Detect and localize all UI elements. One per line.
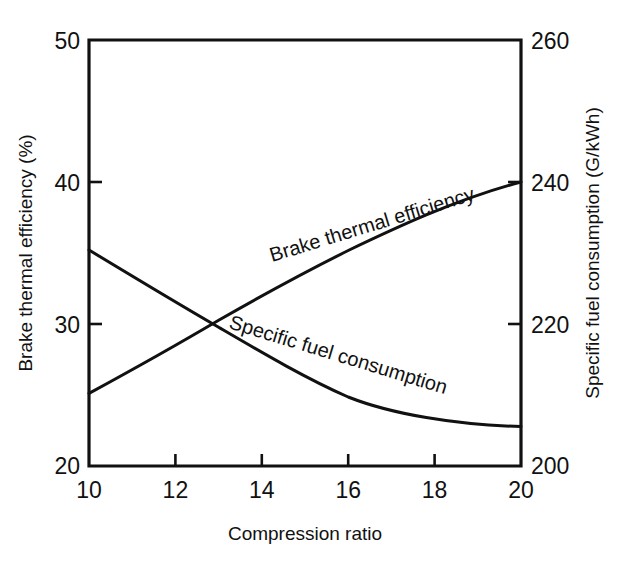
right-axis-tick-labels: 260 240 220 200	[531, 28, 569, 479]
right-tick-label-240: 240	[531, 170, 569, 196]
left-tick-label-50: 50	[54, 28, 80, 54]
x-axis-tick-labels: 10 12 14 16 18 20	[76, 477, 534, 503]
figure-container: 50 40 30 20 260 240 220 200 10 12 14 16 …	[0, 0, 621, 568]
x-tick-label-14: 14	[249, 477, 275, 503]
x-tick-label-12: 12	[163, 477, 189, 503]
x-tick-label-16: 16	[335, 477, 361, 503]
right-tick-label-220: 220	[531, 312, 569, 338]
brake-thermal-efficiency-curve-label: Brake thermal efficiency	[267, 182, 477, 265]
left-axis-tick-labels: 50 40 30 20	[54, 28, 80, 479]
x-tick-label-10: 10	[76, 477, 102, 503]
x-tick-label-20: 20	[508, 477, 534, 503]
data-curves	[89, 182, 521, 427]
right-axis-ticks	[508, 182, 521, 324]
engine-performance-chart: 50 40 30 20 260 240 220 200 10 12 14 16 …	[0, 0, 621, 568]
right-tick-label-200: 200	[531, 453, 569, 479]
left-tick-label-30: 30	[54, 312, 80, 338]
left-tick-label-40: 40	[54, 170, 80, 196]
x-axis-title: Compression ratio	[228, 523, 382, 544]
left-tick-label-20: 20	[54, 453, 80, 479]
y-axis-title: Brake thermal efficiency (%)	[15, 134, 36, 371]
specific-fuel-consumption-curve-label: Specific fuel consumption	[227, 311, 450, 398]
x-tick-label-18: 18	[422, 477, 448, 503]
y2-axis-title: Specific fuel consumption (G/kWh)	[582, 107, 603, 398]
right-tick-label-260: 260	[531, 28, 569, 54]
bottom-axis-ticks	[175, 454, 434, 466]
